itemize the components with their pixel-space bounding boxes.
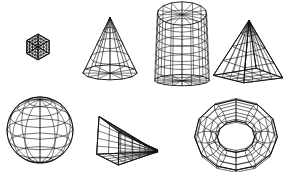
wireframe-solids-figure xyxy=(0,0,283,172)
